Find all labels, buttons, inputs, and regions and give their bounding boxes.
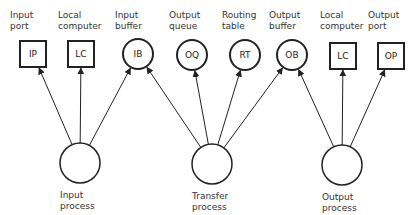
edge-output-to-LC2 xyxy=(342,70,343,145)
label-line: Output xyxy=(322,192,357,203)
resource-label-ob: Outputbuffer xyxy=(269,10,300,32)
process-output xyxy=(322,145,362,185)
label-line: Input xyxy=(60,190,95,201)
resource-ob: OB xyxy=(277,40,307,70)
label-line: process xyxy=(322,203,357,214)
label-line: buffer xyxy=(115,21,142,32)
label-line: Input xyxy=(115,10,142,21)
resource-label-oq: Outputqueue xyxy=(169,10,200,32)
edge-input-to-IP xyxy=(39,68,72,145)
process-label-output: Outputprocess xyxy=(322,192,357,214)
edge-transfer-to-IB xyxy=(147,67,201,147)
resource-label-lc1: Localcomputer xyxy=(58,10,101,32)
resource-label-lc2: Localcomputer xyxy=(320,10,363,32)
label-line: process xyxy=(60,201,95,212)
resource-ip: IP xyxy=(20,41,46,67)
edge-transfer-to-OQ xyxy=(195,71,209,145)
resource-abbr: OB xyxy=(285,50,298,60)
edge-output-to-OP xyxy=(350,70,385,147)
label-line: Transfer xyxy=(192,191,228,202)
resource-label-ib: Inputbuffer xyxy=(115,10,142,32)
edge-output-to-OB xyxy=(299,70,334,147)
label-line: port xyxy=(368,21,399,32)
resource-abbr: OQ xyxy=(185,50,199,60)
edges xyxy=(39,67,385,148)
resource-rt: RT xyxy=(230,40,260,70)
resource-oq: OQ xyxy=(177,40,207,70)
resource-nodes: IPLCIBOQRTOBLCOP xyxy=(20,39,404,70)
resource-lc2: LC xyxy=(330,43,356,69)
label-line: table xyxy=(222,21,257,32)
resource-op: OP xyxy=(378,43,404,69)
resource-abbr: LC xyxy=(337,51,348,61)
resource-abbr: OP xyxy=(385,51,398,61)
label-line: Input xyxy=(10,10,33,21)
label-line: Local xyxy=(58,10,101,21)
resource-abbr: IB xyxy=(134,49,143,59)
process-transfer xyxy=(192,144,232,184)
resource-ib: IB xyxy=(123,39,153,69)
process-resource-diagram: IPLCIBOQRTOBLCOP xyxy=(0,0,419,215)
label-line: computer xyxy=(320,21,363,32)
resource-abbr: IP xyxy=(29,49,38,59)
process-label-transfer: Transferprocess xyxy=(192,191,228,213)
label-line: Routing xyxy=(222,10,257,21)
edge-input-to-LC1 xyxy=(80,68,81,143)
resource-label-rt: Routingtable xyxy=(222,10,257,32)
process-input xyxy=(60,143,100,183)
label-line: Local xyxy=(320,10,363,21)
edge-transfer-to-OB xyxy=(224,68,283,148)
label-line: buffer xyxy=(269,21,300,32)
edge-transfer-to-RT xyxy=(218,70,241,145)
label-line: port xyxy=(10,21,33,32)
process-nodes xyxy=(60,143,362,185)
resource-lc1: LC xyxy=(68,41,94,67)
process-label-input: Inputprocess xyxy=(60,190,95,212)
resource-label-op: Outputport xyxy=(368,10,399,32)
resource-abbr: LC xyxy=(75,49,86,59)
edge-input-to-IB xyxy=(89,68,130,145)
resource-abbr: RT xyxy=(239,50,251,60)
label-line: Output xyxy=(269,10,300,21)
label-line: queue xyxy=(169,21,200,32)
label-line: computer xyxy=(58,21,101,32)
label-line: Output xyxy=(368,10,399,21)
label-line: Output xyxy=(169,10,200,21)
label-line: process xyxy=(192,202,228,213)
resource-label-ip: Inputport xyxy=(10,10,33,32)
